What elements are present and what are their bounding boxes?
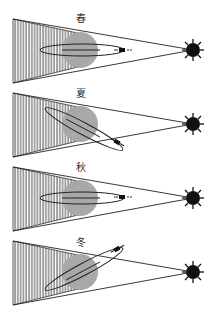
sun-icon [182, 113, 204, 135]
panel-autumn: 秋 [13, 161, 204, 231]
season-label-spring: 春 [76, 13, 86, 24]
seasonal-orbit-diagram: 春 夏 [0, 0, 220, 317]
panel-summer: 夏 [13, 88, 204, 157]
panel-winter: 冬 [13, 236, 204, 305]
earth-disc [62, 106, 98, 142]
season-label-autumn: 秋 [76, 161, 86, 173]
sun-icon [182, 39, 204, 61]
satellite-icon [114, 195, 132, 199]
season-label-winter: 冬 [76, 236, 86, 248]
sun-icon [182, 187, 204, 209]
panel-spring: 春 [13, 13, 204, 83]
satellite-icon [114, 48, 132, 52]
sun-icon [182, 261, 204, 283]
season-label-summer: 夏 [76, 88, 86, 99]
